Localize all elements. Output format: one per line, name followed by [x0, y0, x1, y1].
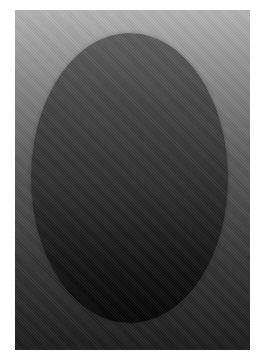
gradient-panel — [15, 10, 250, 350]
dark-oval — [31, 33, 228, 323]
image-canvas: Vertical rectangle with top-to-bottom gr… — [0, 0, 261, 363]
